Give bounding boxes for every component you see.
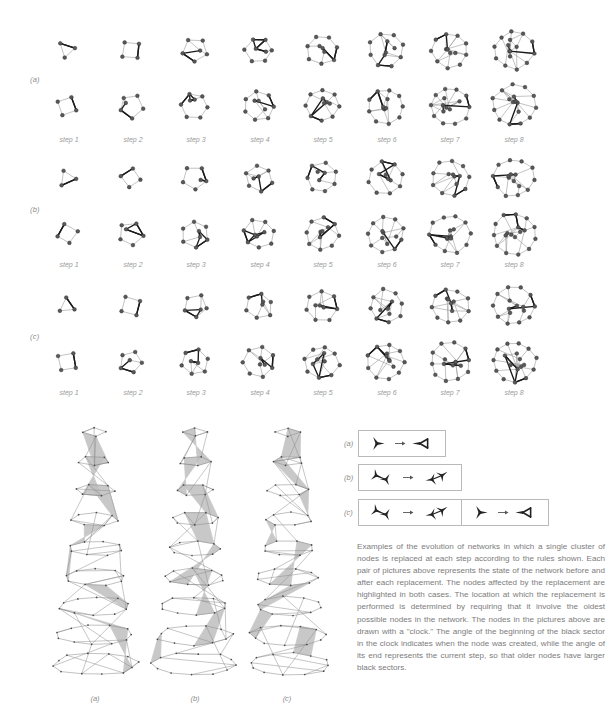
step-label-a-7: step 7 bbox=[430, 136, 470, 143]
network-row-b bbox=[45, 148, 525, 263]
step-label-b-4: step 4 bbox=[240, 261, 280, 268]
step-label-a-6: step 6 bbox=[367, 136, 407, 143]
rule-c-1-graphic bbox=[359, 500, 461, 525]
network-row-a bbox=[45, 20, 525, 135]
rule-box-b-1 bbox=[358, 464, 462, 491]
rule-box-c-1 bbox=[358, 499, 462, 526]
step-label-a-8: step 8 bbox=[494, 136, 534, 143]
columns-3d-panel bbox=[40, 424, 350, 692]
figure-root: (a) step 1 step 2 step 3 step 4 step 5 s… bbox=[0, 0, 609, 713]
row-label-a: (a) bbox=[30, 75, 40, 84]
rule-a-1-graphic bbox=[359, 431, 445, 456]
rule-b-1-graphic bbox=[359, 465, 461, 490]
step-label-b-6: step 6 bbox=[367, 261, 407, 268]
row-label-c: (c) bbox=[30, 332, 39, 341]
step-label-a-2: step 2 bbox=[113, 136, 153, 143]
step-label-c-3: step 3 bbox=[176, 389, 216, 396]
step-label-a-5: step 5 bbox=[303, 136, 343, 143]
figure-caption: Examples of the evolution of networks in… bbox=[357, 541, 605, 674]
step-label-c-1: step 1 bbox=[49, 389, 89, 396]
step-label-b-3: step 3 bbox=[176, 261, 216, 268]
column-label-b: (b) bbox=[180, 694, 210, 703]
step-label-b-5: step 5 bbox=[303, 261, 343, 268]
step-label-a-3: step 3 bbox=[176, 136, 216, 143]
step-label-b-1: step 1 bbox=[49, 261, 89, 268]
step-label-c-6: step 6 bbox=[367, 389, 407, 396]
step-label-c-2: step 2 bbox=[113, 389, 153, 396]
step-label-c-7: step 7 bbox=[430, 389, 470, 396]
column-label-a: (a) bbox=[80, 694, 110, 703]
step-label-c-5: step 5 bbox=[303, 389, 343, 396]
step-label-c-8: step 8 bbox=[494, 389, 534, 396]
step-label-b-8: step 8 bbox=[494, 261, 534, 268]
network-row-c bbox=[45, 276, 525, 391]
rule-label-a: (a) bbox=[344, 439, 353, 448]
rule-label-c: (c) bbox=[344, 508, 353, 517]
step-label-a-4: step 4 bbox=[240, 136, 280, 143]
rule-box-c-2 bbox=[461, 499, 549, 526]
column-label-c: (c) bbox=[272, 694, 302, 703]
rule-box-a-1 bbox=[358, 430, 446, 457]
step-label-b-2: step 2 bbox=[113, 261, 153, 268]
step-label-b-7: step 7 bbox=[430, 261, 470, 268]
row-label-b: (b) bbox=[30, 205, 40, 214]
step-label-a-1: step 1 bbox=[49, 136, 89, 143]
step-label-c-4: step 4 bbox=[240, 389, 280, 396]
rule-label-b: (b) bbox=[344, 473, 353, 482]
rule-c-2-graphic bbox=[462, 500, 548, 525]
